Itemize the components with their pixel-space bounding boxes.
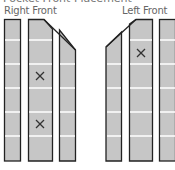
placement-diagram — [0, 0, 175, 170]
